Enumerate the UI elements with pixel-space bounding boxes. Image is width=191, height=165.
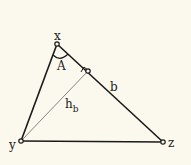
altitude-subscript: b xyxy=(73,104,79,114)
side-yz xyxy=(21,141,163,142)
side-b-label: b xyxy=(110,81,118,93)
foot-point xyxy=(86,69,90,73)
triangle-diagram xyxy=(0,0,191,165)
altitude-hb-label: hb xyxy=(65,98,79,110)
side-xy xyxy=(21,44,57,141)
altitude-h: h xyxy=(65,97,73,111)
vertex-y-label: y xyxy=(9,139,16,151)
vertex-z-label: z xyxy=(168,137,174,149)
vertex-y-point xyxy=(19,139,23,143)
vertex-x-label: x xyxy=(54,30,61,42)
angle-arc-A xyxy=(53,54,68,58)
angle-A-label: A xyxy=(57,60,66,72)
vertex-z-point xyxy=(161,140,165,144)
